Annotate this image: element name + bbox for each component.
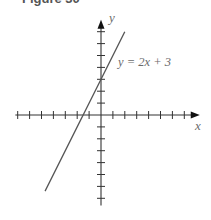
y-axis-label: y <box>107 10 115 25</box>
chart-plot: yxy = 2x + 3 <box>0 0 211 220</box>
y-axis-arrow-icon <box>98 20 105 29</box>
x-axis-label: x <box>194 118 201 133</box>
equation-label: y = 2x + 3 <box>116 55 171 69</box>
